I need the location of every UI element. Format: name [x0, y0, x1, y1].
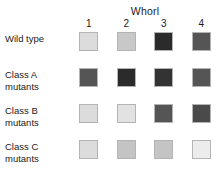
cell-wild-type-whorl-4 [192, 32, 211, 51]
cell-wrap [70, 68, 108, 87]
cell-wrap [145, 140, 183, 159]
cell-class-a-whorl-1 [79, 68, 98, 87]
row-label-wild-type: Wild type [0, 32, 70, 45]
column-header-4: 4 [183, 18, 221, 30]
cell-wrap [145, 32, 183, 51]
row-label-class-b-mutants: Class B mutants [0, 104, 70, 128]
cell-wrap [145, 104, 183, 123]
row-cells-class-b-mutants [70, 104, 220, 123]
whorl-header-label: Whorl [70, 5, 220, 17]
cell-wrap [108, 104, 146, 123]
cell-wrap [183, 32, 221, 51]
cell-class-b-whorl-1 [79, 104, 98, 123]
table-row: Wild type [0, 32, 220, 68]
column-header-row: 1 2 3 4 [70, 18, 220, 30]
table-row: Class B mutants [0, 104, 220, 140]
row-cells-class-c-mutants [70, 140, 220, 159]
cell-class-b-whorl-2 [117, 104, 136, 123]
cell-wild-type-whorl-1 [79, 32, 98, 51]
cell-class-a-whorl-4 [192, 68, 211, 87]
row-cells-wild-type [70, 32, 220, 51]
cell-class-b-whorl-3 [154, 104, 173, 123]
table-row: Class C mutants [0, 140, 220, 176]
cell-class-c-whorl-3 [154, 140, 173, 159]
cell-wrap [108, 32, 146, 51]
cell-wrap [183, 140, 221, 159]
cell-wrap [70, 140, 108, 159]
diagram-rows: Wild type Class A mutants Class B mutant… [0, 32, 220, 176]
cell-wild-type-whorl-2 [117, 32, 136, 51]
whorl-expression-diagram: Whorl 1 2 3 4 Wild type Class A mutants [0, 0, 220, 179]
cell-wrap [183, 68, 221, 87]
row-cells-class-a-mutants [70, 68, 220, 87]
cell-class-b-whorl-4 [192, 104, 211, 123]
cell-class-c-whorl-2 [117, 140, 136, 159]
cell-class-c-whorl-1 [79, 140, 98, 159]
cell-class-a-whorl-3 [154, 68, 173, 87]
cell-wrap [108, 68, 146, 87]
cell-wrap [145, 68, 183, 87]
column-header-1: 1 [70, 18, 108, 30]
cell-class-c-whorl-4 [192, 140, 211, 159]
column-header-3: 3 [145, 18, 183, 30]
column-header-2: 2 [108, 18, 146, 30]
row-label-class-c-mutants: Class C mutants [0, 140, 70, 164]
cell-wild-type-whorl-3 [154, 32, 173, 51]
table-row: Class A mutants [0, 68, 220, 104]
cell-wrap [70, 104, 108, 123]
cell-class-a-whorl-2 [117, 68, 136, 87]
cell-wrap [108, 140, 146, 159]
row-label-class-a-mutants: Class A mutants [0, 68, 70, 92]
cell-wrap [70, 32, 108, 51]
cell-wrap [183, 104, 221, 123]
